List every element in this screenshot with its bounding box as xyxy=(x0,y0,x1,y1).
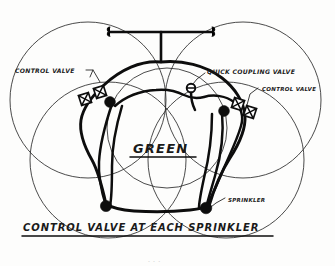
label-quick-coupling-valve: QUICK COUPLING VALVE xyxy=(207,68,296,75)
leader-control-valve-left xyxy=(86,70,100,82)
leader-sprinkler xyxy=(211,198,225,207)
coverage-circle-lower-right xyxy=(148,82,304,238)
lateral-left-mid xyxy=(110,106,122,206)
coverage-circle-group xyxy=(10,22,321,238)
sprinkler-head-upper-left xyxy=(105,97,116,108)
gate-valve-left-outer xyxy=(78,92,91,105)
label-control-valve-left: CONTROL VALVE xyxy=(15,67,75,74)
main-line-cap-left xyxy=(107,27,110,36)
main-line-cap-right xyxy=(212,27,215,36)
plan-caption: CONTROL VALVE AT EACH SPRINKLER xyxy=(23,222,259,233)
lateral-left-down xyxy=(99,104,112,206)
green-outer-boundary xyxy=(81,62,246,212)
leader-control-valve-right xyxy=(247,88,258,105)
irrigation-plan-svg: CONTROL VALVE QUICK COUPLING VALVE CONTR… xyxy=(0,0,335,266)
label-control-valve-right: CONTROL VALVE xyxy=(262,86,316,92)
label-green: GREEN xyxy=(133,141,188,156)
label-sprinkler: SPRINKLER xyxy=(228,197,265,203)
sprinkler-head-upper-right xyxy=(219,106,230,117)
riser-to-qcv xyxy=(191,92,195,110)
quick-coupling-valve-symbol xyxy=(187,84,196,93)
sprinkler-head-lower-right xyxy=(200,202,212,214)
gate-valve-left-inner xyxy=(93,85,106,98)
main-supply-line xyxy=(107,27,214,62)
irrigation-plan-sheet: CONTROL VALVE QUICK COUPLING VALVE CONTR… xyxy=(0,0,335,266)
gate-valve-right-outer xyxy=(243,105,256,118)
gate-valve-right-inner xyxy=(231,97,244,110)
scan-artifact: . . . xyxy=(148,255,161,264)
sprinkler-head-lower-left xyxy=(100,200,111,211)
